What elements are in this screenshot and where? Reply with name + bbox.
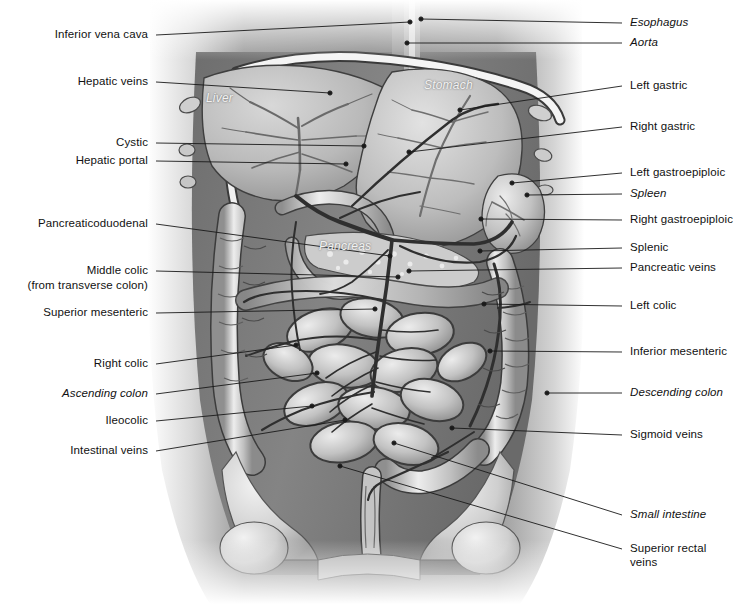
splenic-anchor-dot (478, 249, 482, 253)
label-small-intestine: Small intestine (630, 508, 706, 521)
sigmoid-veins-anchor-dot (450, 426, 454, 430)
organ-label-liver: Liver (206, 91, 233, 105)
label-hepatic-veins: Hepatic veins (78, 75, 148, 88)
organ-label-pancreas: Pancreas (319, 239, 371, 253)
inferior-vena-cava-anchor-dot (408, 20, 412, 24)
organ-label-stomach: Stomach (424, 78, 473, 92)
ileocolic-anchor-dot (310, 404, 314, 408)
aorta-anchor-dot (405, 41, 409, 45)
superior-rectal-anchor-dot (338, 464, 342, 468)
label-splenic: Splenic (630, 241, 668, 254)
hepatic-veins-anchor-dot (328, 91, 332, 95)
label-ileocolic: Ileocolic (106, 414, 148, 427)
label-from-transverse-colon: (from transverse colon) (27, 279, 148, 292)
label-left-colic: Left colic (630, 299, 676, 312)
label-right-colic: Right colic (94, 357, 148, 370)
label-esophagus: Esophagus (630, 16, 688, 29)
descending-colon-anchor-dot (545, 391, 549, 395)
left-gastric-anchor-dot (458, 108, 462, 112)
right-gastric-anchor-dot (407, 150, 411, 154)
label-descending-colon: Descending colon (630, 386, 723, 399)
cystic-anchor-dot (362, 144, 366, 148)
label-pancreatic-veins: Pancreatic veins (630, 261, 716, 274)
left-gastroepiploic-anchor-dot (510, 181, 514, 185)
left-colic-anchor-dot (482, 302, 486, 306)
spleen-anchor-dot (525, 193, 529, 197)
hepatic-portal-anchor-dot (344, 162, 348, 166)
bottom-fade (0, 540, 732, 604)
label-pancreaticoduodenal: Pancreaticoduodenal (38, 217, 148, 230)
label-sigmoid-veins: Sigmoid veins (630, 428, 703, 441)
label-superior-mesenteric: Superior mesenteric (43, 306, 148, 319)
label-right-gastric: Right gastric (630, 120, 695, 133)
right-gastroepiploic-anchor-dot (479, 217, 483, 221)
label-left-gastric: Left gastric (630, 79, 687, 92)
superior-mesenteric-anchor-dot (373, 307, 377, 311)
label-veins: veins (630, 556, 657, 569)
middle-colic-anchor-dot (396, 275, 400, 279)
label-superior-rectal: Superior rectal (630, 542, 706, 555)
label-spleen: Spleen (630, 187, 666, 200)
label-intestinal-veins: Intestinal veins (70, 444, 148, 457)
label-middle-colic: Middle colic (87, 264, 148, 277)
label-aorta: Aorta (630, 36, 658, 49)
intestinal-veins-anchor-dot (343, 418, 347, 422)
label-inferior-vena-cava: Inferior vena cava (55, 28, 148, 41)
label-cystic: Cystic (116, 136, 148, 149)
esophagus-anchor-dot (419, 17, 423, 21)
small-intestine-anchor-dot (392, 441, 396, 445)
ascending-colon-anchor-dot (315, 371, 319, 375)
pancreatic-veins-anchor-dot (407, 269, 411, 273)
label-inferior-mesenteric: Inferior mesenteric (630, 345, 727, 358)
label-hepatic-portal: Hepatic portal (76, 154, 148, 167)
right-colic-anchor-dot (294, 343, 298, 347)
pancreaticoduodenal-anchor-dot (388, 254, 392, 258)
label-right-gastroepiploic: Right gastroepiploic (630, 213, 733, 226)
label-ascending-colon: Ascending colon (62, 387, 148, 400)
label-left-gastroepiploic: Left gastroepiploic (630, 166, 725, 179)
inferior-mesenteric-anchor-dot (488, 349, 492, 353)
